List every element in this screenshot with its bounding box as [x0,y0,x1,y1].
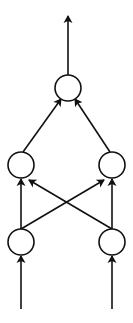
node-input-left [8,229,34,255]
node-hidden-right [99,152,125,178]
node-output [55,75,81,101]
network-diagram [0,0,133,323]
node-hidden-left [8,152,34,178]
edge-hidden-right-to-output [75,99,110,152]
edge-input-left-to-hidden-right [21,180,104,229]
edge-input-right-to-hidden-left [29,180,112,229]
node-input-right [99,229,125,255]
edge-hidden-left-to-output [23,99,61,152]
